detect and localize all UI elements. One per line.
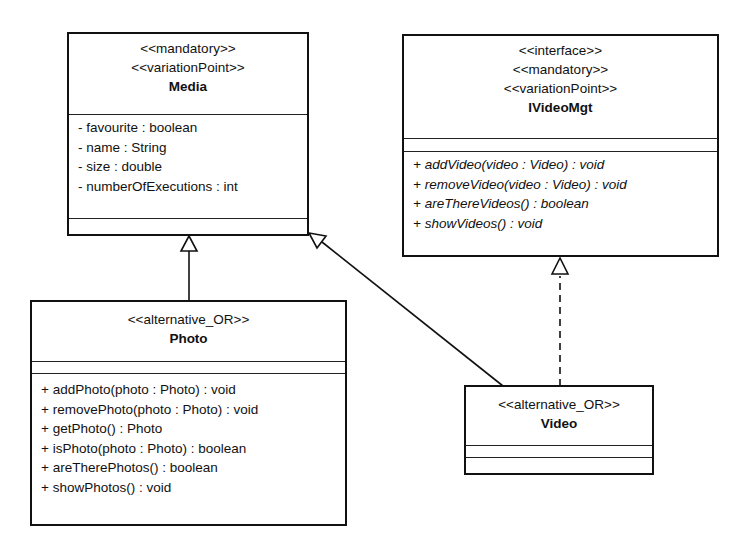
operation: + showVideos() : void bbox=[413, 214, 717, 234]
operations-compartment bbox=[69, 218, 307, 233]
operations-compartment: + addPhoto(photo : Photo) : void + remov… bbox=[32, 373, 345, 497]
generalization-arrowhead-icon bbox=[309, 233, 326, 248]
operation: + areTherePhotos() : boolean bbox=[41, 458, 345, 478]
class-photo[interactable]: <<alternative_OR>> Photo + addPhoto(phot… bbox=[30, 300, 347, 526]
attribute: - size : double bbox=[78, 157, 307, 177]
class-name: Media bbox=[69, 77, 307, 96]
attributes-compartment: - favourite : boolean - name : String - … bbox=[69, 114, 307, 218]
generalization-video-media bbox=[322, 242, 503, 386]
stereotype: <<alternative_OR>> bbox=[32, 310, 345, 329]
operation: + addVideo(video : Video) : void bbox=[413, 155, 717, 175]
class-header: <<mandatory>> <<variationPoint>> Media bbox=[69, 34, 307, 114]
stereotype: <<alternative_OR>> bbox=[466, 395, 652, 414]
attribute: - name : String bbox=[78, 138, 307, 158]
class-name: Video bbox=[466, 414, 652, 433]
class-media[interactable]: <<mandatory>> <<variationPoint>> Media -… bbox=[67, 32, 309, 236]
operation: + areThereVideos() : boolean bbox=[413, 194, 717, 214]
operations-compartment: + addVideo(video : Video) : void + remov… bbox=[404, 151, 717, 233]
stereotype: <<variationPoint>> bbox=[69, 58, 307, 77]
stereotype: <<mandatory>> bbox=[404, 60, 717, 79]
stereotype: <<interface>> bbox=[404, 41, 717, 60]
class-header: <<alternative_OR>> Photo bbox=[32, 302, 345, 361]
operation: + addPhoto(photo : Photo) : void bbox=[41, 380, 345, 400]
attributes-compartment bbox=[404, 138, 717, 151]
class-name: IVideoMgt bbox=[404, 98, 717, 117]
attributes-compartment bbox=[466, 445, 652, 457]
realization-arrowhead-icon bbox=[552, 258, 568, 274]
generalization-arrowhead-icon bbox=[181, 236, 197, 251]
operations-compartment bbox=[466, 457, 652, 472]
operation: + getPhoto() : Photo bbox=[41, 419, 345, 439]
attributes-compartment bbox=[32, 361, 345, 373]
operation: + removeVideo(video : Video) : void bbox=[413, 175, 717, 195]
operation: + removePhoto(photo : Photo) : void bbox=[41, 400, 345, 420]
operation: + showPhotos() : void bbox=[41, 478, 345, 498]
attribute: - favourite : boolean bbox=[78, 118, 307, 138]
stereotype: <<mandatory>> bbox=[69, 39, 307, 58]
class-header: <<alternative_OR>> Video bbox=[466, 387, 652, 445]
class-name: Photo bbox=[32, 329, 345, 348]
class-video[interactable]: <<alternative_OR>> Video bbox=[464, 385, 654, 475]
class-ivideomgt[interactable]: <<interface>> <<mandatory>> <<variationP… bbox=[402, 34, 719, 257]
operation: + isPhoto(photo : Photo) : boolean bbox=[41, 439, 345, 459]
class-header: <<interface>> <<mandatory>> <<variationP… bbox=[404, 36, 717, 138]
attribute: - numberOfExecutions : int bbox=[78, 177, 307, 197]
stereotype: <<variationPoint>> bbox=[404, 79, 717, 98]
